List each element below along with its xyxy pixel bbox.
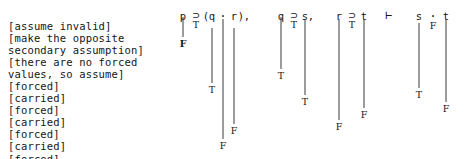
drop-line-p <box>183 17 184 37</box>
value-horseshoe-1: T <box>193 20 199 30</box>
drop-line-s <box>305 19 306 95</box>
truth-tree-diagram: p⊃(q·r),q⊃s,r⊃t⊢s·tFTTFFTTTFTFTFF <box>0 0 468 159</box>
formula-token-turnstile: ⊢ <box>386 10 393 21</box>
drop-line-q-2 <box>281 17 282 69</box>
value-middot-2: F <box>430 21 437 31</box>
drop-line-t-2 <box>446 19 447 102</box>
value-horseshoe-2: T <box>291 20 297 30</box>
value-middot-1: F <box>220 141 227 151</box>
value-s-2: T <box>416 90 422 100</box>
formula-token-comma-1: , <box>244 11 250 22</box>
formula-token-r: r <box>231 11 237 22</box>
formula-token-q: q <box>209 11 215 22</box>
value-t-2: F <box>443 104 450 114</box>
value-horseshoe-3: T <box>349 20 355 30</box>
value-p: F <box>180 39 187 49</box>
drop-line-r-2 <box>339 19 340 120</box>
value-r: F <box>231 126 238 136</box>
drop-line-t <box>364 19 365 108</box>
value-r-2: F <box>336 122 343 132</box>
formula-token-comma-2: , <box>308 11 314 22</box>
drop-line-s-2 <box>419 23 420 88</box>
drop-line-q <box>212 28 213 83</box>
formula-token-s-2: s <box>416 11 422 22</box>
value-t: F <box>361 110 368 120</box>
drop-line-middot-1 <box>223 19 224 139</box>
value-s: T <box>302 97 308 107</box>
drop-line-r <box>234 28 235 124</box>
value-q: T <box>209 85 215 95</box>
value-q-2: T <box>278 71 284 81</box>
